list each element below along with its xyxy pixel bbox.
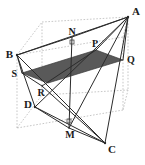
- label-q: Q: [127, 54, 135, 65]
- label-n: N: [68, 26, 76, 37]
- label-d: D: [24, 98, 32, 110]
- label-p: P: [92, 38, 98, 49]
- label-m: M: [65, 129, 75, 140]
- label-b: B: [6, 48, 14, 60]
- geometry-figure: ABCDMNPQRS: [0, 0, 145, 165]
- vertex-dot-b: [16, 54, 18, 56]
- label-r: R: [37, 87, 45, 98]
- geometry-canvas: ABCDMNPQRS: [0, 0, 145, 165]
- vertex-dot-a: [127, 16, 129, 18]
- vertex-dot-c: [104, 142, 106, 144]
- label-c: C: [108, 143, 116, 155]
- label-s: S: [11, 68, 17, 79]
- label-a: A: [132, 5, 140, 17]
- vertex-dot-d: [34, 106, 36, 108]
